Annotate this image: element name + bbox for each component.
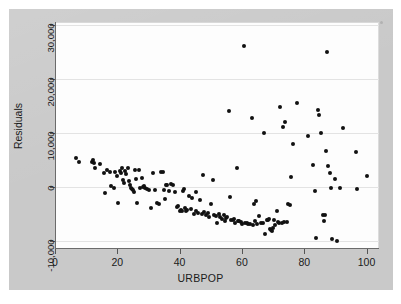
y-tick-label: 20,000	[0, 72, 50, 83]
data-point	[323, 213, 327, 217]
x-tick-mark	[180, 249, 181, 254]
data-point	[275, 209, 279, 213]
data-point	[326, 164, 330, 168]
x-tick-mark	[242, 249, 243, 254]
data-point	[147, 188, 151, 192]
data-point	[182, 187, 186, 191]
data-point	[198, 198, 202, 202]
data-point	[194, 190, 198, 194]
x-tick-label: 80	[298, 256, 310, 268]
data-point	[328, 171, 332, 175]
data-point	[285, 220, 289, 224]
data-point	[98, 162, 102, 166]
data-point	[108, 170, 112, 174]
scatter-plot-figure: Residuals -10,000010,00020,00030,000 020…	[0, 0, 401, 304]
data-point	[157, 202, 161, 206]
data-point	[92, 161, 96, 165]
data-point	[281, 125, 285, 129]
data-point	[227, 109, 231, 113]
data-point	[324, 149, 328, 153]
x-tick-label: 0	[52, 256, 58, 268]
data-point	[132, 190, 136, 194]
data-point	[151, 171, 155, 175]
x-tick-mark	[367, 249, 368, 254]
data-point	[291, 142, 295, 146]
scan-artifact-dot	[380, 21, 383, 24]
y-tick-label: 10,000	[0, 126, 50, 137]
data-point	[211, 178, 215, 182]
data-point	[215, 221, 219, 225]
x-tick-label: 60	[236, 256, 248, 268]
data-point	[306, 134, 310, 138]
gridline-y	[56, 133, 379, 134]
x-tick-label: 100	[358, 256, 376, 268]
x-tick-label: 20	[111, 256, 123, 268]
data-point	[189, 207, 193, 211]
data-point	[295, 101, 299, 105]
data-point	[319, 131, 323, 135]
y-tick-label: 30,000	[0, 18, 50, 29]
gridline-y	[56, 25, 379, 26]
data-point	[209, 202, 213, 206]
data-point	[254, 199, 258, 203]
gridline-y	[56, 79, 379, 80]
data-point	[162, 188, 166, 192]
data-point	[93, 166, 97, 170]
y-tick-label: 0	[0, 180, 50, 191]
data-point	[261, 221, 265, 225]
data-point	[314, 236, 318, 240]
data-point	[122, 181, 126, 185]
data-point	[116, 201, 120, 205]
panel-right-edge	[378, 22, 379, 248]
x-tick-mark	[304, 249, 305, 254]
data-point	[341, 126, 345, 130]
data-point	[250, 116, 254, 120]
data-point	[316, 108, 320, 112]
data-point	[119, 171, 123, 175]
data-point	[228, 195, 232, 199]
data-point	[338, 186, 342, 190]
x-tick-label: 40	[174, 256, 186, 268]
data-point	[313, 189, 317, 193]
data-point	[153, 188, 157, 192]
data-point	[235, 166, 239, 170]
data-point	[335, 239, 339, 243]
data-point	[283, 120, 287, 124]
plot-area	[55, 22, 379, 249]
data-point	[77, 160, 81, 164]
data-point	[124, 172, 128, 176]
data-point	[354, 150, 358, 154]
x-tick-mark	[117, 249, 118, 254]
data-point	[242, 44, 246, 48]
y-tick-label: -10,000	[0, 234, 50, 245]
data-point	[112, 186, 116, 190]
data-point	[325, 50, 329, 54]
data-point	[322, 219, 326, 223]
data-point	[365, 174, 369, 178]
data-point	[317, 113, 321, 117]
data-point	[149, 206, 153, 210]
data-point	[173, 190, 177, 194]
data-point	[263, 232, 267, 236]
data-point	[115, 174, 119, 178]
panel-top-edge	[56, 22, 379, 23]
data-point	[278, 105, 282, 109]
data-point	[262, 131, 266, 135]
data-point	[190, 196, 194, 200]
data-point	[135, 201, 139, 205]
data-point	[311, 163, 315, 167]
data-point	[257, 214, 261, 218]
data-point	[163, 197, 167, 201]
data-point	[289, 175, 293, 179]
data-point	[207, 215, 211, 219]
x-tick-mark	[55, 249, 56, 254]
data-point	[180, 209, 184, 213]
data-point	[288, 203, 292, 207]
data-point	[140, 176, 144, 180]
data-point	[103, 191, 107, 195]
data-point	[333, 177, 337, 181]
data-point	[201, 173, 205, 177]
data-point	[137, 168, 141, 172]
gridline-y	[56, 241, 379, 242]
data-point	[134, 177, 138, 181]
